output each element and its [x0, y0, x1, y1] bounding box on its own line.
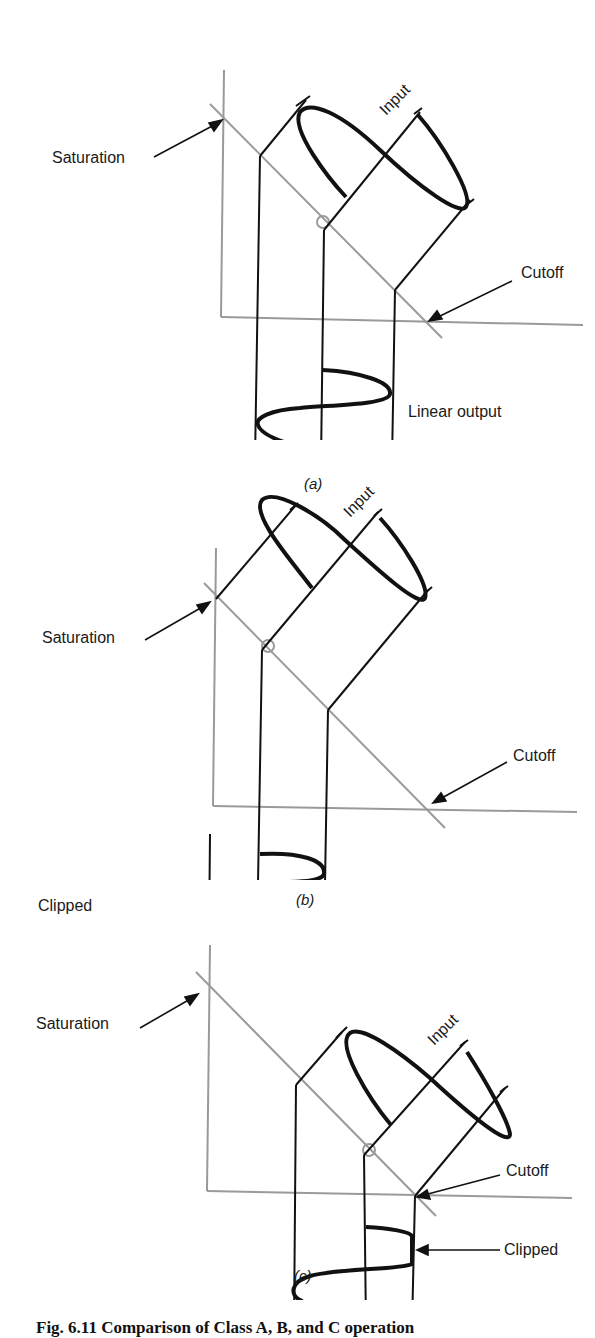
input-projection: [216, 503, 432, 710]
saturation-label: Saturation: [42, 630, 115, 646]
panel-a: Saturation Cutoff Linear output Input (a…: [0, 0, 595, 440]
saturation-label: Saturation: [52, 150, 125, 166]
load-line: [196, 972, 436, 1216]
saturation-arrow: [145, 602, 210, 640]
cutoff-label: Cutoff: [506, 1163, 548, 1179]
output-projection: [255, 156, 395, 440]
load-line: [210, 104, 442, 338]
panel-c: Saturation Cutoff Clipped Input (c): [0, 880, 595, 1280]
panel-c-diagram: [0, 880, 595, 1300]
saturation-arrow: [140, 994, 198, 1028]
figure-caption: Fig. 6.11 Comparison of Class A, B, and …: [36, 1318, 414, 1338]
panel-a-diagram: [0, 0, 595, 440]
output-projection: [209, 650, 328, 880]
axes: [221, 70, 583, 325]
input-waveform: [260, 497, 426, 600]
panel-b: Saturation Cutoff Clipped Input: [0, 440, 595, 880]
cutoff-arrow: [433, 762, 507, 803]
cutoff-arrow: [429, 281, 512, 321]
axes: [213, 548, 577, 812]
saturation-label: Saturation: [36, 1016, 109, 1032]
axes: [207, 945, 572, 1198]
panel-b-diagram: [0, 440, 595, 880]
output-waveform: [212, 854, 324, 880]
clipped-arrow: [417, 1245, 500, 1255]
cutoff-label: Cutoff: [513, 748, 555, 764]
input-projection: [296, 1027, 508, 1196]
panel-c-sublabel: (c): [294, 1268, 312, 1283]
output-waveform: [293, 1227, 412, 1300]
saturation-arrow: [154, 120, 222, 157]
cutoff-label: Cutoff: [521, 265, 563, 281]
load-line: [204, 583, 445, 828]
clipped-label: Clipped: [504, 1242, 558, 1258]
input-projection: [260, 96, 474, 290]
output-label: Linear output: [408, 404, 501, 420]
output-waveform: [258, 370, 390, 440]
